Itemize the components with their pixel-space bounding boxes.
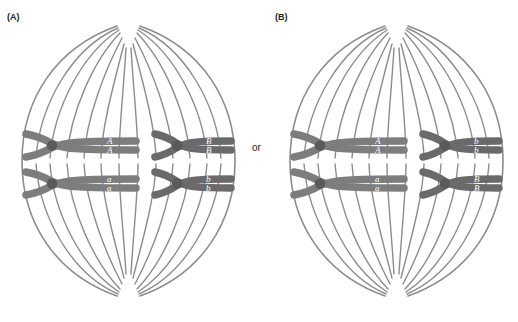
allele-label: B [206, 145, 212, 155]
panel-a-label: (A) [7, 12, 20, 22]
figure-canvas: A A B B a a [0, 0, 518, 322]
allele-label: A [374, 145, 381, 155]
cell-outline-b [290, 26, 503, 296]
allele-label: b [206, 183, 211, 193]
centromere [47, 140, 57, 150]
cell-outline-a [22, 26, 235, 296]
centromere [172, 178, 182, 188]
centromere [172, 140, 182, 150]
chromosome-a-bottom-right: b b [155, 172, 231, 195]
panel-b-label: (B) [275, 12, 288, 22]
allele-label: a [375, 183, 380, 193]
chromosome-b-bottom-right: B B [423, 172, 499, 195]
centromere [440, 178, 450, 188]
allele-label: b [474, 145, 479, 155]
or-connector-label: or [252, 142, 261, 153]
centromere [315, 140, 325, 150]
panel-b-cell: A A b b a a [290, 26, 503, 296]
centromere [315, 178, 325, 188]
allele-label: B [474, 183, 480, 193]
centromere [47, 178, 57, 188]
chromosome-assortment-figure: (A) (B) or [0, 0, 518, 322]
centromere [440, 140, 450, 150]
allele-label: a [107, 183, 112, 193]
allele-label: A [106, 145, 113, 155]
panel-a-cell: A A B B a a [22, 26, 235, 296]
